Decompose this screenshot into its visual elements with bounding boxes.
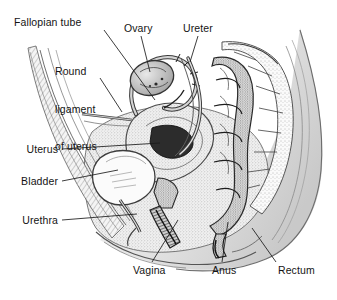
label-round-ligament-line1: Round xyxy=(55,65,97,78)
label-bladder: Bladder xyxy=(0,175,58,188)
label-uterus: Uterus xyxy=(0,143,58,156)
label-round-ligament-line3: of uterus xyxy=(55,140,97,153)
label-round-ligament-line2: ligament xyxy=(55,103,97,116)
label-round-ligament: Round ligament of uterus xyxy=(55,40,97,178)
anatomy-figure: Fallopian tube Round ligament of uterus … xyxy=(0,0,337,300)
label-urethra: Urethra xyxy=(0,214,58,227)
label-rectum: Rectum xyxy=(278,264,315,277)
labels-layer: Fallopian tube Round ligament of uterus … xyxy=(0,0,337,300)
label-ureter: Ureter xyxy=(183,22,213,35)
label-ovary: Ovary xyxy=(124,22,153,35)
label-anus: Anus xyxy=(212,264,236,277)
label-fallopian-tube: Fallopian tube xyxy=(14,16,81,29)
label-vagina: Vagina xyxy=(133,264,166,277)
